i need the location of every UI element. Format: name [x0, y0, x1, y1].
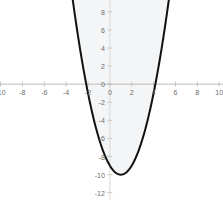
- x-tick-label: 10: [215, 89, 223, 96]
- x-tick-label: -10: [0, 89, 6, 96]
- x-tick-label: -8: [19, 89, 25, 96]
- y-tick-label: 0: [101, 81, 105, 88]
- y-tick-label: -8: [99, 153, 105, 160]
- y-tick-label: -12: [95, 189, 105, 196]
- x-tick-label: -4: [63, 89, 69, 96]
- y-tick-label: 4: [101, 44, 105, 51]
- y-tick-label: -4: [99, 117, 105, 124]
- x-tick-label: 0: [108, 89, 112, 96]
- parabola-chart: -10-8-6-4-20246810 86420-2-4-6-8-10-12: [0, 0, 223, 200]
- y-tick-label: -6: [99, 135, 105, 142]
- y-tick-label: 2: [101, 63, 105, 70]
- y-tick-label: 6: [101, 26, 105, 33]
- x-tick-label: 6: [173, 89, 177, 96]
- y-tick-label: -2: [99, 99, 105, 106]
- x-tick-label: 4: [152, 89, 156, 96]
- plot-area: [0, 0, 223, 200]
- x-tick-label: -6: [41, 89, 47, 96]
- y-tick-label: -10: [95, 171, 105, 178]
- x-tick-label: -2: [85, 89, 91, 96]
- shaded-region: [69, 0, 174, 175]
- x-tick-label: 8: [195, 89, 199, 96]
- x-tick-label: 2: [130, 89, 134, 96]
- y-tick-label: 8: [101, 8, 105, 15]
